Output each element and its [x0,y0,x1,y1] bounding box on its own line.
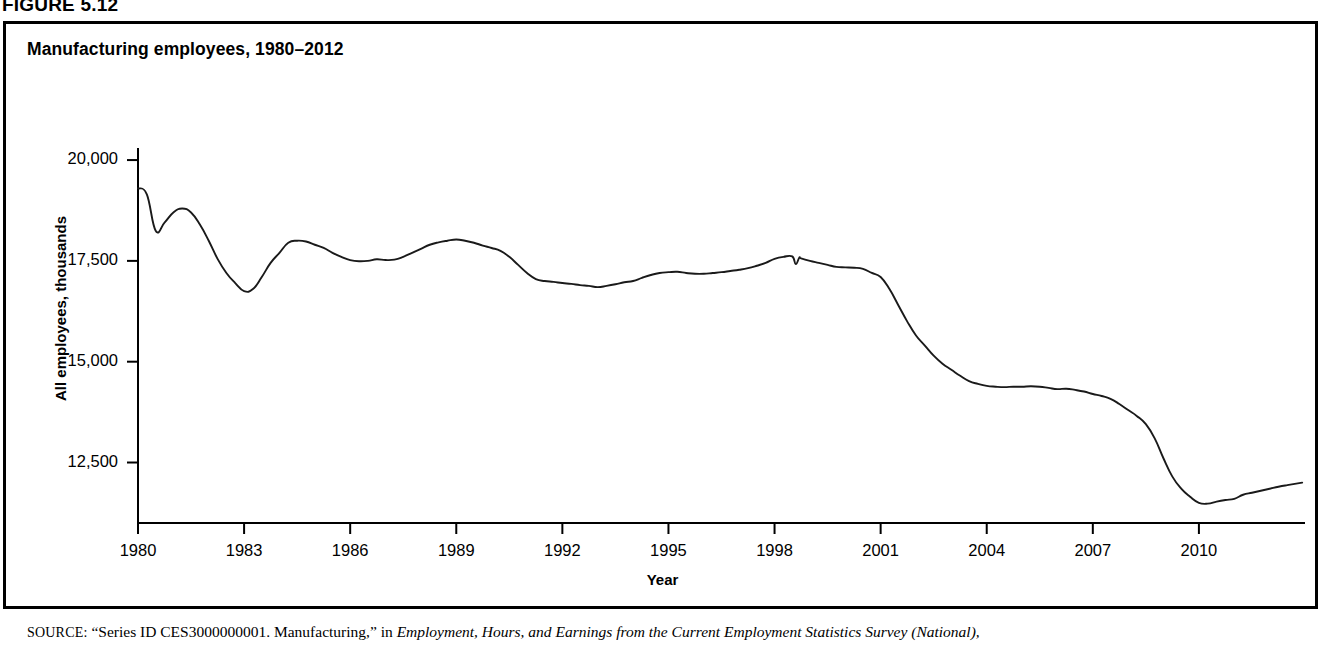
source-italic-text: Employment, Hours, and Earnings from the… [397,623,980,640]
figure-border-box [3,21,1318,609]
source-quoted-text: “Series ID CES3000000001. Manufacturing,… [91,623,392,640]
x-tick-label-1980: 1980 [93,541,183,560]
y-tick-label-17500: 17,500 [26,250,118,269]
x-tick-label-1998: 1998 [730,541,820,560]
x-axis-title: Year [0,571,1325,588]
x-tick-label-1983: 1983 [199,541,289,560]
x-tick-label-1995: 1995 [623,541,713,560]
x-tick-label-1989: 1989 [411,541,501,560]
chart-title: Manufacturing employees, 1980–2012 [27,39,344,60]
y-tick-label-20000: 20,000 [26,149,118,168]
y-axis-title: All employees, thousands [52,189,69,429]
x-tick-label-2007: 2007 [1048,541,1138,560]
x-tick-label-2004: 2004 [942,541,1032,560]
figure-page: FIGURE 5.12 Manufacturing employees, 198… [0,0,1325,652]
source-note: SOURCE: “Series ID CES3000000001. Manufa… [27,622,1317,642]
y-tick-label-12500: 12,500 [26,452,118,471]
figure-number-label: FIGURE 5.12 [2,0,118,16]
x-tick-label-2001: 2001 [836,541,926,560]
x-tick-label-1992: 1992 [517,541,607,560]
x-tick-label-2010: 2010 [1154,541,1244,560]
y-tick-label-15000: 15,000 [26,351,118,370]
source-prefix: SOURCE: [27,625,88,640]
x-tick-label-1986: 1986 [305,541,395,560]
